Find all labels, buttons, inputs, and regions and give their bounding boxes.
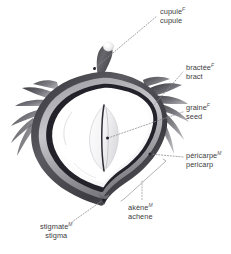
gender-mark-pericarpe: M — [217, 151, 221, 156]
dot-bractee — [151, 106, 154, 109]
label-pericarpe: péricarpeM pericarp — [186, 151, 221, 169]
label-akene-english: achene — [128, 212, 153, 221]
label-pericarpe-english: pericarp — [186, 160, 221, 169]
label-pericarpe-french: péricarpeM — [186, 151, 221, 160]
leader-stigmate — [72, 200, 103, 222]
label-cupule: cupuleF cupule — [160, 7, 185, 25]
label-stigmate-french: stigmateM — [40, 222, 72, 231]
gender-mark-graine: F — [207, 103, 210, 108]
dot-cupule — [93, 67, 96, 70]
label-cupule-french: cupuleF — [160, 7, 185, 16]
gender-mark-cupule: F — [182, 7, 185, 12]
gender-mark-stigmate: M — [68, 222, 72, 227]
label-cupule-english: cupule — [160, 16, 185, 25]
label-bractee-english: bract — [186, 72, 214, 81]
label-graine-french: graineF — [186, 103, 210, 112]
label-graine-english: seed — [186, 112, 210, 121]
dot-stigmate — [102, 199, 105, 202]
label-stigmate-english: stigma — [40, 231, 72, 240]
gender-mark-akene: M — [148, 203, 152, 208]
label-graine: graineF seed — [186, 103, 210, 121]
leader-cupule — [95, 16, 157, 68]
gender-mark-bractee: F — [211, 63, 214, 68]
dot-pericarpe — [149, 153, 152, 156]
diagram-root: cupuleF cupule bractéeF bract graineF se… — [0, 0, 231, 254]
label-stigmate: stigmateM stigma — [40, 222, 72, 240]
dot-graine — [106, 137, 109, 140]
label-bractee: bractéeF bract — [186, 63, 214, 81]
label-akene-french: akèneM — [128, 203, 153, 212]
label-akene: akèneM achene — [128, 203, 153, 221]
beechnut-illustration — [0, 0, 231, 254]
label-bractee-french: bractéeF — [186, 63, 214, 72]
